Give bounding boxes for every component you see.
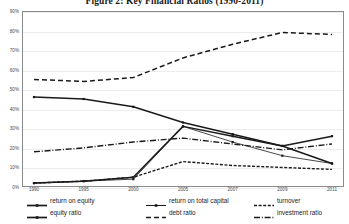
legend-item[interactable]: return on equity [26,196,94,205]
series-layer [22,11,344,187]
y-axis-tick-label: 50% [10,87,19,92]
legend-item[interactable]: return on total capital [145,196,229,205]
legend-item[interactable]: turnover [253,196,300,205]
series-line [34,126,332,183]
series-line [34,33,332,82]
y-axis-tick-label: 20% [10,145,19,150]
legend-key-icon [145,213,167,222]
figure-title: Figure 2: Key Financial Ratios (1990-201… [0,0,349,6]
legend-key [253,208,275,217]
x-axis-tick-label: 1990 [29,187,39,192]
y-axis-tick-label: 70% [10,48,19,53]
y-axis-tick-label: 90% [10,9,19,14]
series-marker [182,125,184,127]
legend-item[interactable]: investment ratio [253,208,322,217]
y-axis-tick-label: 30% [10,126,19,131]
legend-key [26,208,48,217]
legend-label: return on equity [50,196,94,205]
legend-key [145,196,167,205]
legend-label: investment ratio [277,208,322,217]
figure-container: Figure 2: Key Financial Ratios (1990-201… [0,0,349,224]
series-marker [182,121,184,123]
y-axis-tick-label: 10% [10,165,19,170]
series-marker [331,162,333,164]
y-axis-tick-label: 80% [10,28,19,33]
legend-item[interactable]: equity ratio [26,208,81,217]
series-marker [232,135,234,137]
x-axis-tick-label: 2009 [277,187,287,192]
series-marker [281,155,283,157]
x-axis-tick-label: 2005 [178,187,188,192]
series-line [34,97,332,163]
series-marker [232,141,234,143]
series-marker [33,96,35,98]
legend-key [253,196,275,205]
series-marker [83,98,85,100]
x-axis-tick-label: 2011 [327,187,337,192]
series-line [34,162,332,184]
series-marker [232,133,234,135]
series-marker [281,145,283,147]
series-line [34,126,332,183]
x-axis-tick-label: 1995 [79,187,89,192]
y-axis-tick-label: 60% [10,67,19,72]
legend-label: return on total capital [169,196,229,205]
legend-row-1: return on equityreturn on total capitalt… [0,194,349,206]
series-marker [331,135,333,137]
series-marker [132,178,134,180]
legend-label: debt ratio [169,208,196,217]
series-marker [132,106,134,108]
x-axis-tick-label: 2007 [228,187,238,192]
legend-label: equity ratio [50,208,81,217]
chart-legend: return on equityreturn on total capitalt… [0,193,349,224]
x-axis-tick-label: 2000 [128,187,138,192]
legend-key [145,208,167,217]
legend-row-2: equity ratiodebt ratioinvestment ratio [0,206,349,218]
y-axis-tick-label: 0% [12,185,19,190]
y-axis-labels: 0%10%20%30%40%50%60%70%80%90% [0,11,21,187]
legend-label: turnover [277,196,300,205]
legend-key [26,196,48,205]
legend-item[interactable]: debt ratio [145,208,196,217]
y-axis-tick-label: 40% [10,106,19,111]
legend-key-icon [253,213,275,222]
legend-key-icon [26,213,48,222]
